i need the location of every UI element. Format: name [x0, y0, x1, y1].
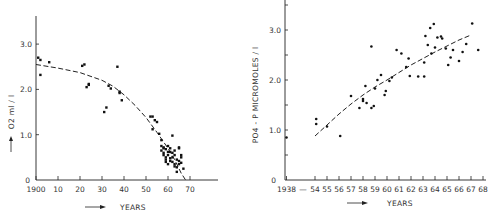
data-point — [118, 92, 120, 94]
data-point — [388, 80, 391, 83]
x-tick-label: 65 — [442, 185, 452, 194]
data-point — [169, 160, 171, 162]
data-point — [37, 56, 39, 58]
x-tick-label: 68 — [478, 185, 488, 194]
data-point — [427, 44, 430, 47]
data-point — [171, 134, 173, 136]
data-point — [376, 79, 379, 82]
data-point — [407, 57, 410, 60]
data-point — [380, 74, 383, 77]
data-point — [370, 45, 373, 48]
data-point — [151, 128, 153, 130]
data-point — [154, 119, 156, 121]
data-point — [171, 152, 173, 154]
data-point — [383, 94, 386, 97]
right-y-axis-title: PO4 - P MICROMOLES / l — [251, 47, 260, 144]
data-point — [315, 123, 318, 126]
data-point — [326, 125, 329, 128]
data-point — [458, 60, 461, 63]
data-point — [160, 139, 162, 141]
data-point — [167, 163, 169, 165]
x-tick-label: 10 — [53, 185, 63, 194]
data-point — [158, 133, 160, 135]
data-point — [180, 156, 182, 158]
x-tick-label: 70 — [185, 185, 195, 194]
data-point — [447, 64, 450, 67]
x-tick-label: 58 — [358, 185, 368, 194]
x-tick-label: 63 — [418, 185, 428, 194]
data-point — [395, 49, 398, 52]
data-point — [88, 83, 90, 85]
data-point — [285, 136, 288, 139]
x-tick-label: 40 — [119, 185, 129, 194]
x-tick-label: 60 — [382, 185, 392, 194]
data-point — [110, 87, 112, 89]
y-tick-label: 3.0 — [269, 26, 281, 35]
data-point — [156, 121, 158, 123]
data-point — [83, 63, 85, 65]
data-point — [162, 146, 164, 148]
data-point — [178, 160, 180, 162]
x-tick-label: 61 — [394, 185, 404, 194]
left-y-arrow-icon — [9, 136, 13, 152]
figure: 01.02.03.0 190010203040506070 O2 ml / l … — [0, 0, 488, 222]
data-point — [182, 167, 184, 169]
data-point — [441, 37, 444, 40]
data-point — [105, 106, 107, 108]
y-tick-label: 1.0 — [269, 126, 281, 135]
data-point — [178, 146, 180, 148]
data-point — [385, 90, 388, 93]
data-point — [39, 59, 41, 61]
left-x-axis-title: YEARS — [119, 203, 146, 212]
data-point — [169, 157, 171, 159]
data-point — [452, 49, 455, 52]
right-x-axis-title: YEARS — [386, 199, 413, 208]
phosphate-trend-line — [315, 35, 471, 136]
x-tick-label: 66 — [454, 185, 464, 194]
data-point — [81, 65, 83, 67]
data-point — [169, 147, 171, 149]
x-tick-label: 57 — [346, 185, 356, 194]
data-point — [167, 151, 169, 153]
data-point — [176, 171, 178, 173]
oxygen-data-points — [37, 56, 185, 173]
data-point — [85, 86, 87, 88]
left-x-arrow-icon — [85, 205, 106, 209]
data-point — [373, 105, 376, 108]
data-point — [162, 152, 164, 154]
left-y-axis-title: O2 ml / l — [7, 95, 16, 130]
x-tick-label: 20 — [75, 185, 85, 194]
data-point — [465, 43, 468, 46]
data-point — [103, 111, 105, 113]
data-point — [167, 154, 169, 156]
data-point — [424, 35, 427, 38]
x-tick-label: 62 — [406, 185, 416, 194]
data-point — [173, 149, 175, 151]
data-point — [449, 56, 452, 59]
data-point — [169, 151, 171, 153]
data-point — [374, 87, 377, 90]
data-point — [165, 156, 167, 158]
data-point — [433, 23, 436, 26]
data-point — [39, 74, 41, 76]
data-point — [167, 145, 169, 147]
data-point — [173, 154, 175, 156]
data-point — [162, 154, 164, 156]
data-point — [350, 95, 353, 98]
x-tick-label: 30 — [97, 185, 107, 194]
data-point — [430, 52, 433, 55]
y-tick-label: 0 — [25, 176, 30, 185]
data-point — [165, 148, 167, 150]
data-point — [370, 107, 373, 110]
data-point — [434, 46, 437, 49]
data-point — [176, 158, 178, 160]
data-point — [116, 66, 118, 68]
data-point — [48, 61, 50, 63]
data-point — [176, 166, 178, 168]
data-point — [471, 22, 474, 25]
data-point — [358, 107, 361, 110]
x-tick-label: 50 — [141, 185, 151, 194]
x-tick-label: 67 — [466, 185, 476, 194]
y-tick-label: 3.0 — [20, 40, 32, 49]
data-point — [165, 158, 167, 160]
